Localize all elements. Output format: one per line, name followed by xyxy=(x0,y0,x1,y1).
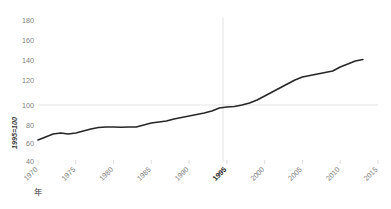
x-axis-title: 年 xyxy=(34,187,42,197)
y-tick-label-140: 140 xyxy=(22,56,34,65)
series-line-index xyxy=(38,60,363,141)
x-tick-label-1975: 1975 xyxy=(60,165,78,183)
x-axis-tickmarks xyxy=(38,160,378,164)
x-tick-label-1995: 1995 xyxy=(211,165,229,183)
y-tick-label-120: 120 xyxy=(22,76,34,85)
x-tick-label-2015: 2015 xyxy=(362,165,380,183)
y-tick-label-40: 40 xyxy=(26,157,34,166)
x-tick-label-2010: 2010 xyxy=(324,165,342,183)
x-axis-tick-labels: 1970 1975 1980 1985 1990 1995 2000 2005 … xyxy=(22,165,380,183)
x-tick-label-2000: 2000 xyxy=(248,165,266,183)
line-chart: 180 160 140 120 100 80 60 40 1970 1975 1… xyxy=(0,0,391,209)
x-tick-label-1970: 1970 xyxy=(22,165,40,183)
y-tick-label-100: 100 xyxy=(22,101,34,110)
x-tick-label-1990: 1990 xyxy=(173,165,191,183)
y-axis-title: 1995=100 xyxy=(10,117,19,149)
y-tick-label-80: 80 xyxy=(26,121,34,130)
y-tick-label-180: 180 xyxy=(22,16,34,25)
x-tick-label-2005: 2005 xyxy=(286,165,304,183)
gridlines xyxy=(38,18,378,162)
y-axis-tick-labels: 180 160 140 120 100 80 60 40 xyxy=(22,16,34,166)
x-tick-label-1980: 1980 xyxy=(97,165,115,183)
y-tick-label-60: 60 xyxy=(26,139,34,148)
chart-container: 180 160 140 120 100 80 60 40 1970 1975 1… xyxy=(0,0,391,209)
y-tick-label-160: 160 xyxy=(22,36,34,45)
x-tick-label-1985: 1985 xyxy=(135,165,153,183)
